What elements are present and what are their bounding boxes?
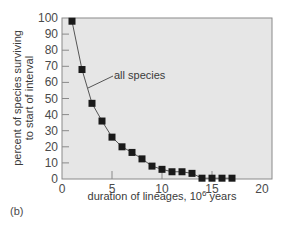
- annotation-label: all species: [114, 69, 166, 81]
- y-tick-label: 30: [45, 124, 59, 138]
- x-tick-label: 20: [255, 182, 269, 196]
- plot-area: [62, 18, 272, 179]
- y-tick-label: 60: [45, 75, 59, 89]
- y-tick-label: 20: [45, 140, 59, 154]
- data-point-marker: [79, 66, 86, 73]
- data-point-marker: [119, 143, 126, 150]
- data-point-marker: [179, 168, 186, 175]
- data-point-marker: [169, 168, 176, 175]
- data-point-marker: [89, 100, 96, 107]
- y-axis-title: percent of species surviving to start of…: [11, 30, 35, 166]
- data-point-marker: [149, 163, 156, 170]
- data-point-marker: [159, 166, 166, 173]
- y-tick-label: 80: [45, 43, 59, 57]
- y-axis-title-line1: percent of species surviving: [11, 30, 23, 166]
- y-tick-label: 40: [45, 108, 59, 122]
- panel-label: (b): [10, 205, 23, 217]
- data-point-marker: [219, 175, 226, 182]
- data-point-marker: [129, 149, 136, 156]
- y-tick-label: 10: [45, 156, 59, 170]
- y-axis-title-line2: to start of interval: [23, 56, 35, 140]
- data-point-marker: [199, 175, 206, 182]
- x-axis-title: duration of lineages, 106 years: [88, 189, 237, 202]
- data-point-marker: [139, 155, 146, 162]
- data-point-marker: [69, 18, 76, 25]
- y-tick-label: 100: [38, 11, 58, 25]
- x-tick-label: 0: [59, 182, 66, 196]
- y-tick-label: 0: [51, 172, 58, 186]
- chart: percent of species surviving to start of…: [0, 0, 290, 234]
- y-tick-label: 90: [45, 27, 59, 41]
- data-point-marker: [109, 134, 116, 141]
- y-tick-label: 70: [45, 59, 59, 73]
- data-point-marker: [229, 175, 236, 182]
- data-point-marker: [99, 118, 106, 125]
- y-tick-label: 50: [45, 92, 59, 106]
- data-point-marker: [209, 175, 216, 182]
- data-point-marker: [189, 170, 196, 177]
